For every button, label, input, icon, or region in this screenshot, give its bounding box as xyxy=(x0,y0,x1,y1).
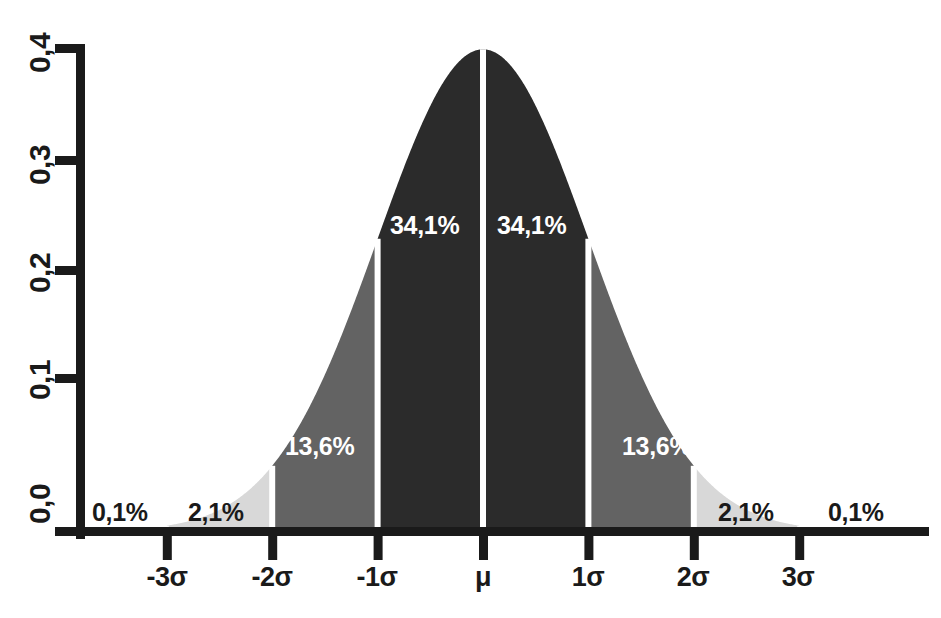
x-axis-line xyxy=(76,527,929,536)
xtick-label-mu: μ xyxy=(443,562,523,593)
x-axis-tick-5 xyxy=(690,536,699,560)
xtick-label-3-sigma: 3σ xyxy=(758,562,838,593)
xtick-label-minus-1-sigma: -1σ xyxy=(337,562,417,593)
region-label-left-band-3: 2,1% xyxy=(188,498,244,527)
y-axis-tick-3 xyxy=(55,374,77,383)
y-axis-tick-0 xyxy=(55,44,77,53)
normal-distribution-figure: 0,4 0,3 0,2 0,1 0,0 -3σ -2σ -1σ μ 1σ 2σ … xyxy=(0,0,941,618)
area-band-left-2 xyxy=(272,239,377,531)
ytick-label-0-4: 0,4 xyxy=(23,23,57,83)
curve-fill-layer xyxy=(61,49,904,531)
region-label-right-band-3: 2,1% xyxy=(718,498,774,527)
region-label-left-band-1: 34,1% xyxy=(390,211,459,240)
x-axis-tick-6 xyxy=(795,536,804,560)
area-band-right-2 xyxy=(588,239,693,531)
region-label-left-band-2: 13,6% xyxy=(285,432,354,461)
region-label-right-band-2: 13,6% xyxy=(622,432,691,461)
region-label-right-tail-outer: 0,1% xyxy=(828,498,884,527)
ytick-label-0-0: 0,0 xyxy=(23,474,57,534)
x-axis-tick-0 xyxy=(163,536,172,560)
xtick-label-2-sigma: 2σ xyxy=(653,562,733,593)
area-band-right-1 xyxy=(483,49,588,531)
ytick-label-0-3: 0,3 xyxy=(23,135,57,195)
ytick-label-0-1: 0,1 xyxy=(23,350,57,410)
x-axis-tick-2 xyxy=(374,536,383,560)
region-label-right-band-1: 34,1% xyxy=(497,211,566,240)
xtick-label-1-sigma: 1σ xyxy=(548,562,628,593)
y-axis-tick-4 xyxy=(55,527,77,536)
region-label-left-tail-outer: 0,1% xyxy=(92,498,148,527)
y-axis-tick-1 xyxy=(55,156,77,165)
ytick-label-0-2: 0,2 xyxy=(23,243,57,303)
area-band-left-1 xyxy=(378,49,483,531)
xtick-label-minus-2-sigma: -2σ xyxy=(232,562,312,593)
x-axis-tick-4 xyxy=(584,536,593,560)
y-axis-tick-2 xyxy=(55,266,77,275)
xtick-label-minus-3-sigma: -3σ xyxy=(127,562,207,593)
x-axis-tick-1 xyxy=(268,536,277,560)
y-axis-line xyxy=(76,44,85,539)
x-axis-tick-3 xyxy=(479,536,488,560)
